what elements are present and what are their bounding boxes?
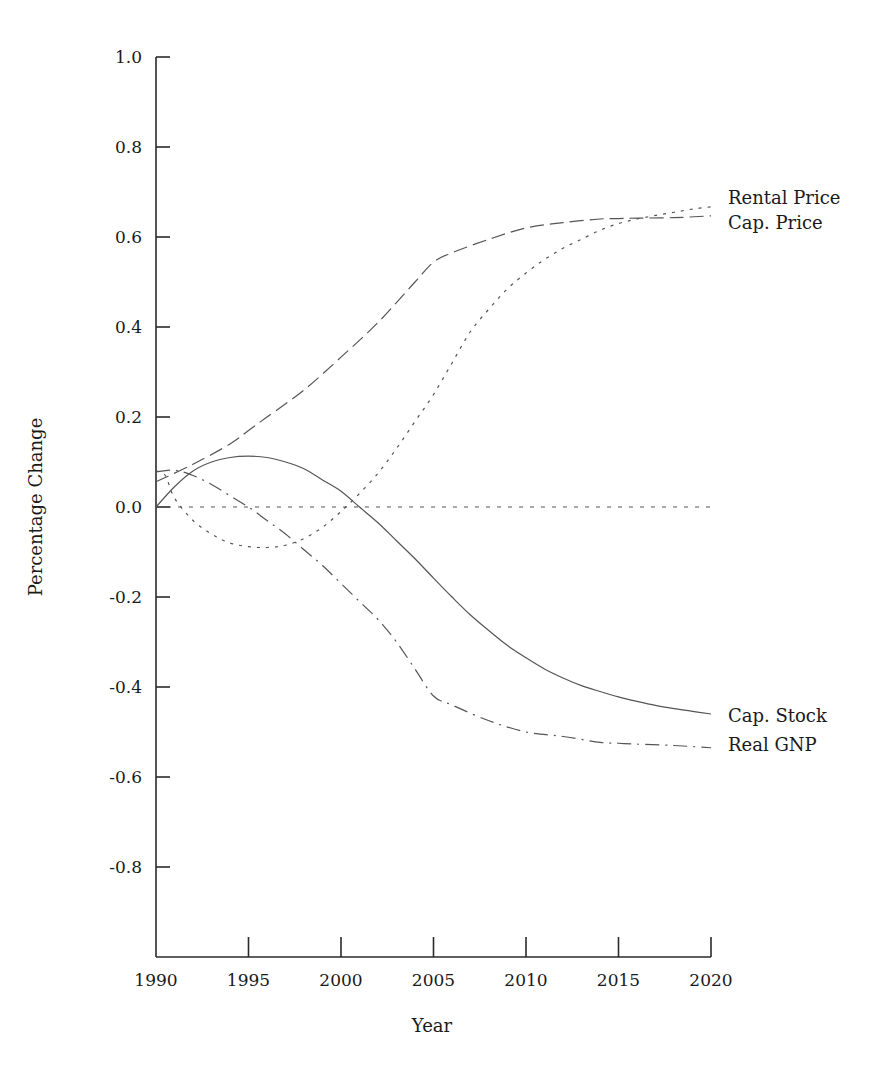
x-axis-title: Year	[411, 1015, 453, 1036]
label-cap-stock: Cap. Stock	[728, 705, 828, 726]
x-tick-label: 2020	[689, 970, 732, 990]
y-axis-title: Percentage Change	[25, 418, 46, 597]
series-cap-price	[156, 216, 711, 482]
line-chart: 1.00.80.60.40.20.0-0.2-0.4-0.6-0.8199019…	[0, 0, 885, 1076]
y-tick-label: 0.8	[115, 137, 142, 157]
label-rental-price: Rental Price	[728, 187, 840, 208]
x-tick-label: 2000	[319, 970, 362, 990]
y-tick-label: 0.0	[115, 497, 142, 517]
x-tick-label: 1990	[134, 970, 177, 990]
x-tick-label: 2015	[597, 970, 640, 990]
y-tick-label: -0.2	[109, 587, 142, 607]
y-tick-label: 1.0	[115, 47, 142, 67]
series-rental-price	[156, 207, 711, 548]
y-tick-label: -0.6	[109, 767, 142, 787]
y-tick-label: 0.6	[115, 227, 142, 247]
x-tick-label: 1995	[227, 970, 270, 990]
series-real-gnp	[156, 470, 711, 748]
label-real-gnp: Real GNP	[728, 734, 817, 755]
y-tick-label: -0.8	[109, 857, 142, 877]
x-tick-label: 2005	[412, 970, 455, 990]
label-cap-price: Cap. Price	[728, 212, 823, 233]
y-tick-label: 0.4	[115, 317, 142, 337]
series-lines	[156, 207, 711, 748]
series-cap-stock	[156, 456, 711, 714]
y-tick-label: -0.4	[109, 677, 142, 697]
y-tick-label: 0.2	[115, 407, 142, 427]
tick-labels: 1.00.80.60.40.20.0-0.2-0.4-0.6-0.8199019…	[109, 47, 732, 990]
x-tick-label: 2010	[504, 970, 547, 990]
